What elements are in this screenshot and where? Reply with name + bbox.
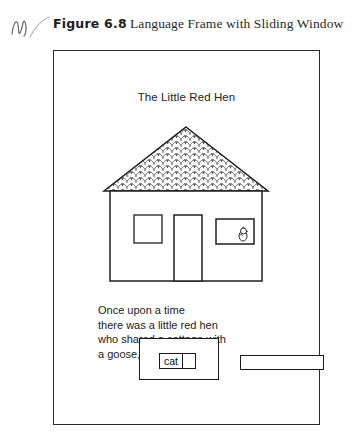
handwritten-initial-mark-icon [8, 16, 52, 38]
sliding-window-word[interactable]: cat [159, 353, 183, 369]
story-line: Once upon a time [98, 303, 226, 318]
sliding-window-slot[interactable]: cat [159, 353, 196, 369]
figure-title: Language Frame with Sliding Window [130, 16, 343, 32]
story-line: there was a little red hen [98, 318, 226, 333]
sliding-window-card[interactable]: cat [139, 338, 219, 380]
figure-number-label: Figure 6.8 [53, 16, 127, 31]
sliding-window-blank[interactable] [183, 353, 196, 369]
shingled-roof-icon [100, 123, 272, 193]
figure-frame: The Little Red Hen [53, 50, 320, 425]
sliding-window-extension[interactable] [240, 355, 324, 370]
story-title: The Little Red Hen [54, 91, 319, 103]
house-illustration [100, 123, 272, 288]
figure-header: Figure 6.8 Language Frame with Sliding W… [0, 14, 358, 38]
